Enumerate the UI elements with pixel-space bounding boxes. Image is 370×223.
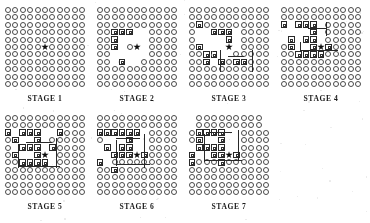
empty-cell xyxy=(248,22,254,28)
empty-cell xyxy=(171,44,177,50)
empty-cell xyxy=(226,14,232,20)
marked-cell xyxy=(211,152,218,159)
empty-cell xyxy=(196,81,202,87)
scan-speckle xyxy=(322,168,323,169)
stage-7-caption: STAGE 7 xyxy=(188,202,270,211)
empty-cell xyxy=(141,66,147,72)
marked-cell-core xyxy=(114,132,117,135)
empty-cell xyxy=(241,137,247,143)
empty-cell xyxy=(303,74,309,80)
empty-cell xyxy=(171,22,177,28)
empty-cell xyxy=(79,22,85,28)
empty-cell xyxy=(219,7,225,13)
empty-cell xyxy=(318,7,324,13)
empty-cell xyxy=(171,66,177,72)
empty-cell xyxy=(5,182,11,188)
scan-speckle xyxy=(280,171,281,172)
empty-cell xyxy=(233,14,239,20)
empty-cell xyxy=(49,189,55,195)
empty-cell xyxy=(156,115,162,121)
empty-cell xyxy=(241,152,247,158)
empty-cell xyxy=(119,81,125,87)
empty-cell xyxy=(12,81,18,87)
empty-cell xyxy=(311,59,317,65)
empty-cell xyxy=(263,152,269,158)
empty-cell xyxy=(196,59,202,65)
marked-cell xyxy=(19,129,26,136)
marked-cell-core xyxy=(290,39,293,42)
empty-cell xyxy=(20,37,26,43)
marked-cell-core xyxy=(213,147,216,150)
empty-cell xyxy=(219,122,225,128)
empty-cell xyxy=(79,122,85,128)
empty-cell xyxy=(64,37,70,43)
empty-cell xyxy=(97,66,103,72)
empty-cell xyxy=(248,29,254,35)
empty-cell xyxy=(104,66,110,72)
marked-cell xyxy=(49,144,56,151)
scan-speckle xyxy=(113,37,115,38)
empty-cell xyxy=(281,14,287,20)
marked-cell-core xyxy=(221,31,224,34)
empty-cell xyxy=(20,182,26,188)
marked-cell xyxy=(196,144,203,151)
scan-speckle xyxy=(363,31,364,32)
marked-cell-core xyxy=(206,147,209,150)
empty-cell xyxy=(119,189,125,195)
empty-cell xyxy=(149,22,155,28)
empty-cell xyxy=(79,174,85,180)
marked-cell-core xyxy=(121,154,124,157)
marked-cell-core xyxy=(236,61,239,64)
empty-cell xyxy=(263,22,269,28)
empty-cell xyxy=(104,44,110,50)
empty-cell xyxy=(189,130,195,136)
empty-cell xyxy=(248,130,254,136)
empty-cell xyxy=(211,22,217,28)
empty-cell xyxy=(256,152,262,158)
empty-cell xyxy=(233,174,239,180)
marked-cell xyxy=(310,29,317,36)
empty-cell xyxy=(97,137,103,143)
empty-cell xyxy=(263,51,269,57)
empty-cell xyxy=(57,137,63,143)
empty-cell xyxy=(119,167,125,173)
empty-cell xyxy=(149,130,155,136)
empty-cell xyxy=(57,115,63,121)
empty-cell xyxy=(248,74,254,80)
empty-cell xyxy=(104,189,110,195)
empty-cell xyxy=(333,51,339,57)
empty-cell xyxy=(27,14,33,20)
empty-cell xyxy=(20,59,26,65)
empty-cell xyxy=(189,81,195,87)
empty-cell xyxy=(340,14,346,20)
empty-cell xyxy=(112,174,118,180)
empty-cell xyxy=(72,137,78,143)
empty-cell xyxy=(64,66,70,72)
empty-cell xyxy=(149,182,155,188)
empty-cell xyxy=(164,167,170,173)
empty-cell xyxy=(171,7,177,13)
marked-cell xyxy=(119,29,126,36)
empty-cell xyxy=(5,14,11,20)
scan-speckle xyxy=(361,32,363,33)
empty-cell xyxy=(42,59,48,65)
empty-cell xyxy=(134,22,140,28)
empty-cell xyxy=(256,74,262,80)
empty-cell xyxy=(64,74,70,80)
empty-cell xyxy=(204,81,210,87)
empty-cell xyxy=(5,189,11,195)
empty-cell xyxy=(149,7,155,13)
panel-stage-3: ★STAGE 3 xyxy=(188,6,270,106)
empty-cell xyxy=(79,74,85,80)
scan-speckle xyxy=(290,7,291,9)
empty-cell xyxy=(57,152,63,158)
panel-stage-5: ★STAGE 5 xyxy=(4,114,86,214)
empty-cell xyxy=(340,51,346,57)
empty-cell xyxy=(241,174,247,180)
marked-cell-core xyxy=(129,139,132,142)
empty-cell xyxy=(20,74,26,80)
empty-cell xyxy=(42,115,48,121)
empty-cell xyxy=(104,182,110,188)
empty-cell xyxy=(348,14,354,20)
empty-cell xyxy=(79,167,85,173)
